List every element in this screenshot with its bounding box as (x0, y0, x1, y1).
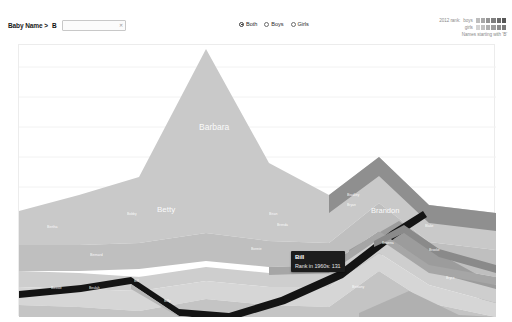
radio-both-label: Both (246, 21, 257, 27)
radio-both-dot[interactable] (239, 22, 244, 27)
stream-bands[interactable] (19, 49, 496, 317)
legend-row-girls: girls (439, 25, 507, 31)
legend-boys-swatch-5 (502, 18, 507, 23)
search-input[interactable]: ✕ (62, 20, 126, 31)
tooltip: Bill Rank in 1960s: 131 (291, 251, 345, 272)
legend-row-boys: 2012 rank: boys (439, 17, 507, 23)
radio-girls[interactable]: Girls (291, 21, 309, 27)
clear-icon[interactable]: ✕ (119, 22, 123, 29)
legend-note: Names starting with 'B' (439, 32, 507, 37)
radio-boys[interactable]: Boys (264, 21, 283, 27)
stream-graph[interactable] (19, 45, 496, 317)
plot-frame[interactable] (18, 44, 495, 316)
legend-girls-scale (476, 25, 507, 30)
legend-rank-label: 2012 rank: (439, 18, 460, 23)
tooltip-detail: Rank in 1960s: 131 (295, 263, 341, 270)
legend-boys-scale (476, 18, 507, 23)
band-barbara[interactable] (19, 49, 496, 250)
tooltip-name: Bill (295, 254, 341, 262)
legend-girls-label: girls (465, 25, 473, 30)
toolbar: Baby Name > B ✕ Both Boys Girls 2012 ran… (0, 0, 512, 41)
radio-boys-dot[interactable] (264, 22, 269, 27)
radio-both[interactable]: Both (239, 21, 257, 27)
name-filter-group: Baby Name > B ✕ (8, 20, 126, 31)
chart-area[interactable]: BarbaraBettyBenjaminBrandonBerthaBessieB… (0, 41, 512, 322)
baby-name-voyager-app: Baby Name > B ✕ Both Boys Girls 2012 ran… (0, 0, 512, 322)
radio-girls-dot[interactable] (291, 22, 296, 27)
radio-girls-label: Girls (298, 21, 309, 27)
gender-radio-group: Both Boys Girls (239, 21, 309, 27)
filter-label: Baby Name > (8, 22, 48, 29)
legend: 2012 rank: boys girls Names starting wit… (439, 17, 507, 37)
radio-boys-label: Boys (271, 21, 283, 27)
filter-current-value: B (52, 22, 57, 29)
legend-girls-swatch-5 (502, 25, 507, 30)
legend-boys-label: boys (463, 18, 473, 23)
